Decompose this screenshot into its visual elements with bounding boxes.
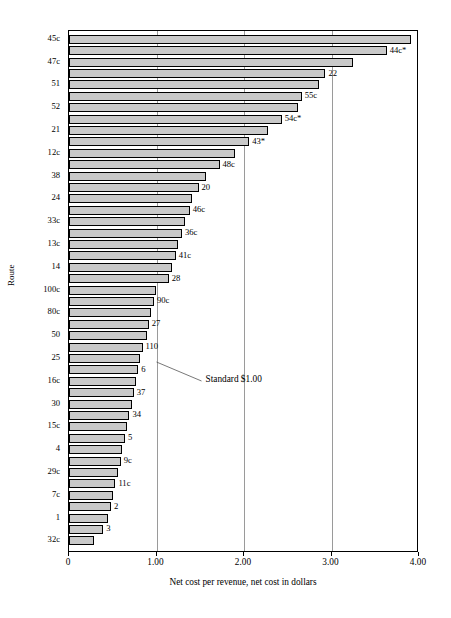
bar[interactable]: [69, 525, 103, 534]
x-axis-tick: [68, 552, 69, 556]
bar-row: 46c: [69, 205, 419, 216]
bar[interactable]: [69, 411, 129, 420]
bar[interactable]: [69, 468, 118, 477]
bar-row: 20: [69, 182, 419, 193]
bar-value-label: 3: [106, 523, 110, 534]
bar-value-label: 2: [114, 501, 118, 512]
bar[interactable]: [69, 240, 178, 249]
bar-value-label: 27: [152, 318, 161, 329]
bar[interactable]: [69, 365, 138, 374]
bar[interactable]: [69, 137, 249, 146]
bar[interactable]: [69, 69, 325, 78]
bar-row: 90c: [69, 296, 419, 307]
bar-row: [69, 535, 419, 546]
bar[interactable]: [69, 491, 113, 500]
bar-row: [69, 239, 419, 250]
bar-row: [69, 216, 419, 227]
bar[interactable]: [69, 514, 108, 523]
bar-row: [69, 467, 419, 478]
bar[interactable]: [69, 183, 199, 192]
bar[interactable]: [69, 46, 387, 55]
bar-row: 54c*: [69, 114, 419, 125]
bar[interactable]: [69, 103, 298, 112]
bar-value-label: 41c: [179, 250, 191, 261]
bar-value-label: 34: [132, 409, 141, 420]
bar[interactable]: [69, 35, 411, 44]
bar-row: 34: [69, 410, 419, 421]
bar[interactable]: [69, 149, 235, 158]
bar[interactable]: [69, 126, 268, 135]
x-axis-tick: [331, 552, 332, 556]
y-axis-tick-label: 33c: [48, 215, 60, 226]
bar[interactable]: [69, 354, 140, 363]
bar[interactable]: [69, 115, 282, 124]
bar-value-label: 11c: [118, 478, 130, 489]
bar-value-label: 48c: [223, 159, 235, 170]
x-axis: 01.002.003.004.00: [68, 552, 418, 572]
bar-row: [69, 148, 419, 159]
bar-row: [69, 57, 419, 68]
bar[interactable]: [69, 320, 149, 329]
bar[interactable]: [69, 457, 121, 466]
y-axis-tick-label: 7c: [52, 489, 60, 500]
bar-value-label: 90c: [157, 295, 169, 306]
bar-row: [69, 285, 419, 296]
x-axis-tick: [243, 552, 244, 556]
bar[interactable]: [69, 479, 115, 488]
y-axis-tick-label: 38: [51, 170, 60, 181]
horizontal-bar-chart: 45c47c51522112c382433c13c14100c80c502516…: [0, 0, 451, 618]
bar[interactable]: [69, 297, 154, 306]
bar-value-label: 36c: [185, 227, 197, 238]
bar[interactable]: [69, 434, 125, 443]
bar-row: [69, 490, 419, 501]
bar[interactable]: [69, 536, 94, 545]
bar[interactable]: [69, 229, 182, 238]
y-axis-tick-label: 13c: [48, 238, 60, 249]
bar[interactable]: [69, 422, 127, 431]
y-axis-tick-label: 24: [51, 192, 60, 203]
x-axis-tick: [156, 552, 157, 556]
bar[interactable]: [69, 194, 192, 203]
bar[interactable]: [69, 251, 176, 260]
bar-value-label: 6: [141, 364, 145, 375]
bar[interactable]: [69, 274, 169, 283]
bar[interactable]: [69, 263, 172, 272]
bar-row: 41c: [69, 250, 419, 261]
y-axis-tick-label: 30: [51, 398, 60, 409]
bar[interactable]: [69, 308, 151, 317]
bar[interactable]: [69, 172, 206, 181]
bar-row: 9c: [69, 456, 419, 467]
bar[interactable]: [69, 58, 353, 67]
y-axis-tick-label: 1: [56, 512, 60, 523]
bar-row: [69, 102, 419, 113]
bar[interactable]: [69, 343, 143, 352]
bar[interactable]: [69, 400, 132, 409]
bar[interactable]: [69, 286, 156, 295]
y-axis-title: Route: [6, 265, 16, 287]
bar-row: [69, 353, 419, 364]
bar[interactable]: [69, 502, 111, 511]
bar[interactable]: [69, 445, 122, 454]
bar-value-label: 43*: [252, 136, 265, 147]
bar[interactable]: [69, 388, 134, 397]
bar[interactable]: [69, 217, 185, 226]
bar-row: 110: [69, 342, 419, 353]
bar[interactable]: [69, 377, 136, 386]
y-axis-tick-labels: 45c47c51522112c382433c13c14100c80c502516…: [0, 30, 65, 552]
y-axis-tick-label: 51: [51, 78, 60, 89]
bar-row: 43*: [69, 136, 419, 147]
bar-row: [69, 307, 419, 318]
bar[interactable]: [69, 160, 220, 169]
bar[interactable]: [69, 80, 319, 89]
bar-row: [69, 171, 419, 182]
y-axis-tick-label: 12c: [48, 147, 60, 158]
y-axis-tick-label: 52: [51, 101, 60, 112]
bar-row: 37: [69, 387, 419, 398]
bar[interactable]: [69, 331, 147, 340]
bar-row: 3: [69, 524, 419, 535]
bar-row: 48c: [69, 159, 419, 170]
bar[interactable]: [69, 92, 302, 101]
bar-value-label: 22: [328, 68, 337, 79]
plot-area: 44c*2255c54c*43*48c2046c36c41c2890c27110…: [68, 30, 418, 552]
bar[interactable]: [69, 206, 190, 215]
